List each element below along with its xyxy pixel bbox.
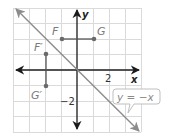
tick-label-x-2: 2: [105, 73, 111, 84]
label-F: F: [52, 25, 59, 38]
callout-text: y = −x: [116, 91, 154, 103]
point-F-prime: [44, 52, 49, 57]
x-axis-label: x: [130, 74, 138, 85]
label-G-prime: G′: [31, 89, 43, 102]
y-axis-label: y: [82, 9, 89, 20]
equation-callout: y = −x: [113, 89, 160, 113]
coordinate-plane-figure: F G F′ G′ y x 2 −2 y = −x: [0, 0, 170, 140]
label-G: G: [97, 25, 106, 38]
point-G-prime: [44, 84, 49, 89]
point-G: [92, 37, 97, 42]
label-F-prime: F′: [34, 41, 43, 54]
point-F: [60, 37, 65, 42]
tick-label-y-neg2: −2: [60, 96, 75, 107]
